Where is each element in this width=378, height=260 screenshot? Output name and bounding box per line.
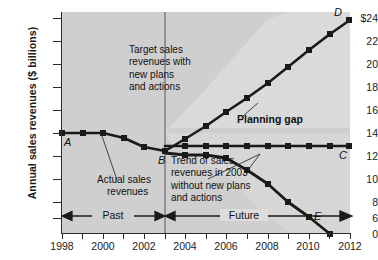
y-tick-label: 20 bbox=[326, 58, 378, 70]
y-tick-label: 14 bbox=[326, 127, 378, 139]
x-tick-label: 2006 bbox=[206, 240, 246, 252]
point-label-b: B bbox=[158, 154, 165, 166]
y-tick-label: 8 bbox=[326, 196, 378, 208]
x-tick-label: 2000 bbox=[83, 240, 123, 252]
series-flat-line-markers bbox=[182, 143, 352, 149]
series-actual-sales-markers bbox=[59, 130, 168, 154]
annotation-trend-line1: Trend of sales bbox=[171, 155, 286, 167]
annotation-planning-gap: Planning gap bbox=[237, 113, 303, 125]
point-label-a: A bbox=[64, 136, 71, 148]
era-label-future: Future bbox=[220, 209, 268, 221]
y-tick-label: 6 bbox=[326, 212, 378, 224]
series-actual-sales bbox=[62, 133, 165, 151]
annotation-trend-line4: and actions bbox=[171, 192, 286, 204]
y-tick-label: 10 bbox=[326, 173, 378, 185]
y-axis-line bbox=[61, 12, 62, 234]
y-tick-label: $24 bbox=[326, 12, 378, 24]
y-axis-title: Annual sales revenues ($ billions) bbox=[26, 0, 38, 229]
y-tick-label: 12 bbox=[326, 150, 378, 162]
y-tick-label: 22 bbox=[326, 35, 378, 47]
annotation-target-line1: Target sales bbox=[129, 44, 219, 56]
x-tick-label: 2012 bbox=[330, 240, 370, 252]
era-label-past: Past bbox=[92, 209, 134, 221]
chart-figure: Annual sales revenues ($ billions) bbox=[0, 0, 378, 260]
annotation-trend: Trend of sales revenues in 2003 without … bbox=[171, 155, 286, 205]
x-tick-label: 1998 bbox=[42, 240, 82, 252]
plot-area: Target sales revenues with new plans and… bbox=[62, 12, 350, 234]
y-tick-label: 18 bbox=[326, 81, 378, 93]
x-tick-label: 2010 bbox=[288, 240, 328, 252]
x-tick-label: 2008 bbox=[247, 240, 287, 252]
annotation-target-line3: new plans bbox=[129, 69, 219, 81]
annotation-trend-line2: revenues in 2003 bbox=[171, 167, 286, 179]
annotation-target-line4: and actions bbox=[129, 81, 219, 93]
point-label-e: E bbox=[314, 210, 321, 222]
annotation-target-sales: Target sales revenues with new plans and… bbox=[129, 44, 219, 94]
x-tick-label: 2004 bbox=[165, 240, 205, 252]
annotation-target-line2: revenues with bbox=[129, 56, 219, 68]
annotation-trend-line3: without new plans bbox=[171, 180, 286, 192]
y-tick-label: 16 bbox=[326, 104, 378, 116]
y-tick-label: 0 bbox=[326, 228, 378, 240]
x-tick-label: 2002 bbox=[124, 240, 164, 252]
